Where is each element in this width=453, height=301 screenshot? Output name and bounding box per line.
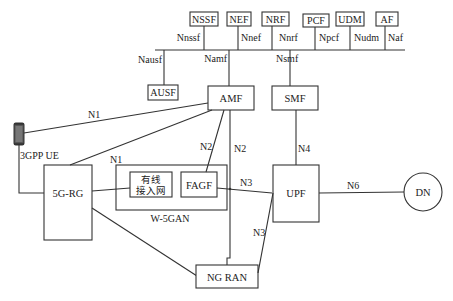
rg-label: 5G-RG bbox=[53, 188, 84, 199]
nf-af: AF Naf bbox=[376, 12, 404, 50]
upf-dn-n6-label: N6 bbox=[347, 180, 359, 191]
ngran-upf-n3-label: N3 bbox=[253, 227, 265, 238]
ue-amf-n1-label: N1 bbox=[88, 109, 100, 120]
nausf-label: Nausf bbox=[138, 54, 163, 65]
amf-label: AMF bbox=[220, 93, 243, 104]
fagf-label: FAGF bbox=[186, 180, 212, 191]
rg-amf-n1-label: N1 bbox=[110, 154, 122, 165]
wired-an-label-line2: 接入网 bbox=[136, 185, 166, 196]
nnrf-label: Nnrf bbox=[279, 32, 299, 43]
nf-smf: Nsmf SMF bbox=[272, 50, 318, 110]
naf-label: Naf bbox=[388, 32, 404, 43]
nnssf-label: Nnssf bbox=[177, 32, 201, 43]
upf-label: UPF bbox=[286, 188, 305, 199]
nudm-label: Nudm bbox=[354, 32, 379, 43]
ue-phone-icon bbox=[14, 123, 24, 145]
architecture-diagram: NSSF Nnssf NEF Nnef NRF Nnrf PCF Npcf UD… bbox=[0, 0, 453, 301]
ausf-label: AUSF bbox=[150, 87, 176, 98]
namf-label: Namf bbox=[204, 53, 227, 64]
ue-label: 3GPP UE bbox=[20, 150, 59, 161]
nf-pcf: PCF Npcf bbox=[303, 14, 340, 50]
nnef-label: Nnef bbox=[241, 32, 262, 43]
nf-nef: NEF Nnef bbox=[227, 12, 262, 50]
nef-label: NEF bbox=[230, 14, 249, 25]
nf-nssf: NSSF Nnssf bbox=[177, 12, 218, 50]
nf-amf: Namf AMF bbox=[204, 50, 254, 110]
rg-box bbox=[44, 165, 92, 240]
smf-upf-n4-label: N4 bbox=[298, 143, 310, 154]
udm-label: UDM bbox=[338, 14, 361, 25]
nssf-label: NSSF bbox=[192, 14, 216, 25]
nf-udm: UDM Nudm bbox=[336, 12, 379, 50]
ngran-amf-n2-label: N2 bbox=[234, 143, 246, 154]
upf-dn-n6-link bbox=[319, 192, 404, 193]
nf-ausf: Nausf AUSF bbox=[138, 50, 178, 100]
nf-nrf: NRF Nnrf bbox=[262, 12, 299, 50]
w5gan-label: W-5GAN bbox=[151, 213, 190, 224]
fagf-amf-n2-label: N2 bbox=[200, 141, 212, 152]
ngran-label: NG RAN bbox=[207, 272, 247, 283]
fagf-upf-n3-label: N3 bbox=[240, 177, 252, 188]
pcf-label: PCF bbox=[307, 15, 325, 26]
wired-an-label-line1: 有线 bbox=[141, 174, 161, 185]
nsmf-label: Nsmf bbox=[276, 53, 299, 64]
ue-amf-n1-link bbox=[24, 103, 208, 133]
smf-label: SMF bbox=[284, 93, 305, 104]
dn-label: DN bbox=[415, 187, 431, 198]
npcf-label: Npcf bbox=[319, 32, 340, 43]
af-label: AF bbox=[381, 14, 394, 25]
nrf-label: NRF bbox=[266, 14, 286, 25]
